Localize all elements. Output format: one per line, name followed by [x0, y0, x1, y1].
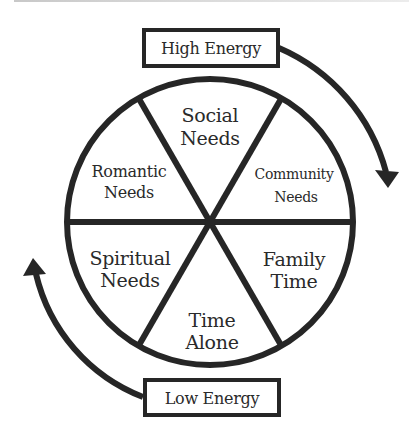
segment-label-line1: Spiritual	[90, 247, 171, 269]
energy-needs-wheel-diagram: Social Needs Community Needs Family Time…	[0, 0, 419, 446]
segment-label-line1: Family	[263, 248, 326, 270]
segment-label-line2: Needs	[274, 189, 318, 205]
segment-label-line1: Community	[254, 166, 333, 182]
segment-label-line2: Alone	[184, 331, 238, 353]
arrow-head-down-icon	[375, 170, 399, 188]
segment-label-line1: Time	[189, 309, 236, 331]
segment-spiritual-needs: Spiritual Needs	[90, 247, 171, 291]
segment-family-time: Family Time	[263, 248, 326, 292]
segment-label-line1: Social	[182, 104, 239, 126]
segment-label-line2: Needs	[100, 269, 160, 291]
high-energy-label-box: High Energy	[144, 30, 278, 66]
arrow-head-up-icon	[23, 258, 46, 276]
segment-label-line2: Needs	[180, 127, 240, 149]
segment-label-line2: Needs	[104, 183, 154, 202]
segment-label-line2: Time	[271, 270, 318, 292]
segment-social-needs: Social Needs	[180, 104, 240, 149]
low-energy-label-box: Low Energy	[145, 380, 279, 415]
high-energy-label: High Energy	[161, 39, 261, 58]
segment-label-line1: Romantic	[92, 162, 167, 181]
segment-time-alone: Time Alone	[184, 309, 238, 353]
low-energy-label: Low Energy	[165, 389, 260, 408]
